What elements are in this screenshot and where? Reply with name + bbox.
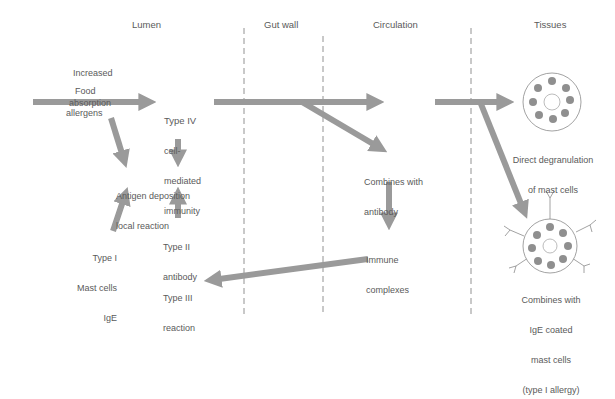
arrow-branch-to-combines-antibody [302, 102, 380, 148]
header-circulation: Circulation [373, 20, 418, 30]
header-lumen: Lumen [132, 20, 161, 30]
label-immune-complexes: Immune complexes [366, 235, 409, 305]
label-ige-coated-mast-cells: Combines with IgE coated mast cells (typ… [507, 275, 595, 399]
label-food: Food [75, 86, 96, 96]
label-combines-with-antibody: Combines with antibody [364, 157, 423, 227]
label-type-iii: Type III reaction [163, 273, 195, 343]
label-type-i: Type I Mast cells IgE [68, 233, 117, 333]
header-tissues: Tissues [534, 20, 566, 30]
header-gut-wall: Gut wall [264, 20, 298, 30]
arrow-allergens-to-antigen [111, 118, 124, 160]
arrow-immune-complexes-to-type-iii [212, 259, 368, 280]
mast-cell-icon [523, 73, 581, 131]
label-allergens: allergens [66, 108, 103, 118]
label-direct-degranulation: Direct degranulation of mast cells [507, 135, 599, 205]
